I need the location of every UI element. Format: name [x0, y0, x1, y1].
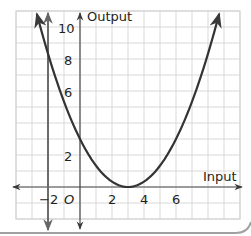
- parabola-chart: Output Input 10 8 6 2 −2 O 2 4 6: [0, 0, 251, 236]
- x-tick-6: 6: [172, 192, 180, 207]
- y-axis-label: Output: [87, 9, 132, 24]
- origin-label: O: [64, 192, 74, 207]
- y-tick-6: 6: [64, 85, 72, 100]
- x-tick-neg2: −2: [39, 192, 58, 207]
- chart-container: Output Input 10 8 6 2 −2 O 2 4 6: [0, 0, 251, 236]
- x-axis-label: Input: [203, 169, 237, 184]
- page-border: [0, 222, 251, 233]
- x-tick-2: 2: [108, 192, 116, 207]
- y-tick-10: 10: [58, 21, 75, 36]
- y-tick-2: 2: [64, 149, 72, 164]
- y-tick-8: 8: [64, 53, 72, 68]
- x-tick-4: 4: [140, 192, 148, 207]
